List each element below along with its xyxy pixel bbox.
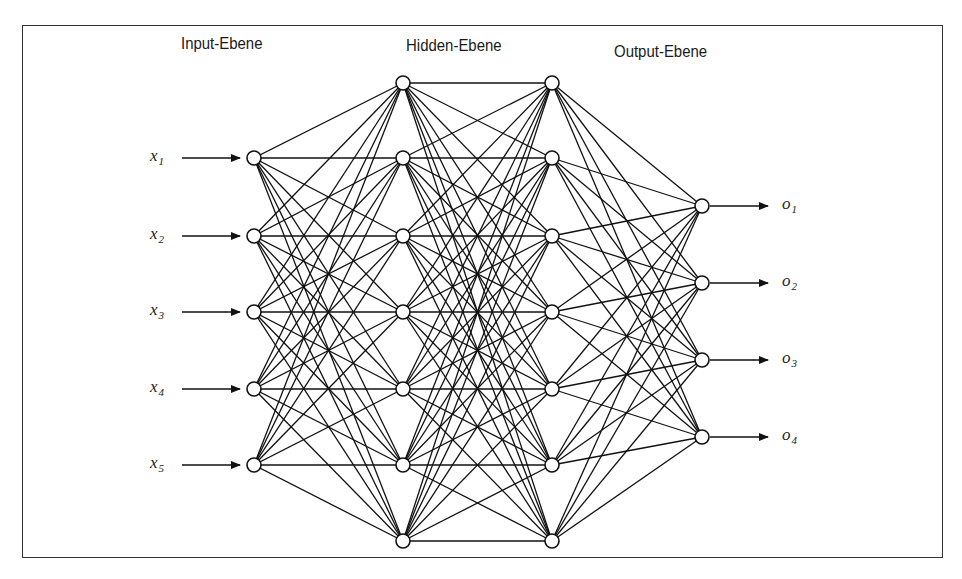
input-node-4	[247, 382, 261, 396]
input-node-3	[247, 305, 261, 319]
input-label-2: x2	[150, 225, 164, 245]
input-subscript: 2	[159, 233, 165, 245]
edge-input-to-hidden-1	[254, 83, 403, 158]
edge-hidden-2-to-output	[552, 360, 702, 541]
input-node-1	[247, 151, 261, 165]
output-label-2: o2	[782, 272, 797, 292]
output-variable: o	[782, 425, 791, 444]
output-node-3	[695, 353, 709, 367]
edge-input-to-hidden-1	[254, 83, 403, 465]
input-label-5: x5	[150, 454, 164, 474]
input-label-3: x3	[150, 301, 164, 321]
input-subscript: 5	[159, 462, 165, 474]
output-node-2	[695, 276, 709, 290]
hidden-2-node-2	[545, 151, 559, 165]
output-subscript: 2	[792, 280, 798, 292]
input-variable: x	[150, 453, 158, 472]
output-node-1	[695, 199, 709, 213]
hidden-1-node-7	[396, 534, 410, 548]
edge-hidden-2-to-output	[552, 206, 702, 389]
neural-network-graph	[0, 0, 962, 579]
input-variable: x	[150, 224, 158, 243]
hidden-2-node-1	[545, 76, 559, 90]
output-label-1: o1	[782, 195, 797, 215]
input-label-4: x4	[150, 378, 164, 398]
edge-input-to-hidden-1	[254, 83, 403, 312]
connection-edges	[254, 83, 702, 541]
hidden-1-node-4	[396, 305, 410, 319]
hidden-2-node-5	[545, 382, 559, 396]
output-subscript: 3	[792, 357, 798, 369]
hidden-1-node-5	[396, 382, 410, 396]
hidden-2-node-3	[545, 229, 559, 243]
output-variable: o	[782, 271, 791, 290]
input-label-1: x1	[150, 147, 164, 167]
hidden-1-node-3	[396, 229, 410, 243]
output-label-3: o3	[782, 349, 797, 369]
hidden-2-node-7	[545, 534, 559, 548]
edge-input-to-hidden-1	[254, 465, 403, 541]
input-subscript: 3	[159, 309, 165, 321]
output-variable: o	[782, 348, 791, 367]
input-variable: x	[150, 146, 158, 165]
output-subscript: 4	[792, 434, 798, 446]
edge-hidden-2-to-output	[552, 206, 702, 236]
edge-input-to-hidden-1	[254, 83, 403, 236]
input-variable: x	[150, 377, 158, 396]
diagram-canvas: Input-Ebene Hidden-Ebene Output-Ebene x1…	[0, 0, 962, 579]
edge-hidden-2-to-output	[552, 206, 702, 465]
input-subscript: 1	[159, 155, 165, 167]
hidden-2-node-4	[545, 305, 559, 319]
hidden-1-node-1	[396, 76, 410, 90]
output-subscript: 1	[792, 203, 798, 215]
input-subscript: 4	[159, 386, 165, 398]
hidden-1-node-2	[396, 151, 410, 165]
edge-hidden-2-to-output	[552, 83, 702, 283]
input-node-2	[247, 229, 261, 243]
output-variable: o	[782, 194, 791, 213]
edge-hidden-2-to-output	[552, 283, 702, 541]
hidden-1-node-6	[396, 458, 410, 472]
output-label-4: o4	[782, 426, 797, 446]
input-node-5	[247, 458, 261, 472]
output-node-4	[695, 430, 709, 444]
edge-hidden-2-to-output	[552, 437, 702, 541]
hidden-2-node-6	[545, 458, 559, 472]
input-variable: x	[150, 300, 158, 319]
